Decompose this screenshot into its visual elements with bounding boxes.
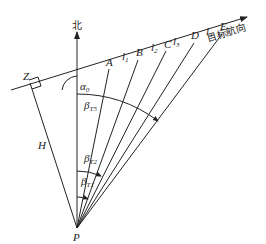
target-course-line <box>11 17 247 90</box>
bearing-line-D <box>77 43 194 228</box>
segment-l4-label: l4 <box>206 25 213 39</box>
target-motion-diagram: 北 目标航向 Z H α0 βT5 βT2 βT1 A B C D E l1 l… <box>0 0 266 244</box>
point-E-label: E <box>219 20 227 32</box>
observer-P-label: P <box>72 231 80 243</box>
alpha0-arc <box>62 76 77 90</box>
beta-T5-label: βT5 <box>83 99 97 113</box>
north-label: 北 <box>72 20 82 31</box>
point-D-label: D <box>190 29 199 41</box>
point-B-label: B <box>136 46 143 58</box>
segment-l1-label: l1 <box>122 50 129 64</box>
alpha0-label: α0 <box>80 80 90 94</box>
bearing-line-C <box>77 51 166 228</box>
point-Z-label: Z <box>23 70 30 82</box>
point-C-label: C <box>164 38 172 50</box>
distance-H-label: H <box>37 139 47 151</box>
point-A-label: A <box>105 56 113 68</box>
perpendicular-line-H <box>30 83 77 228</box>
segment-l3-label: l3 <box>173 35 180 49</box>
segment-l2-label: l2 <box>151 41 158 55</box>
beta-T2-label: βT2 <box>83 152 97 166</box>
bearing-line-A <box>77 69 109 228</box>
